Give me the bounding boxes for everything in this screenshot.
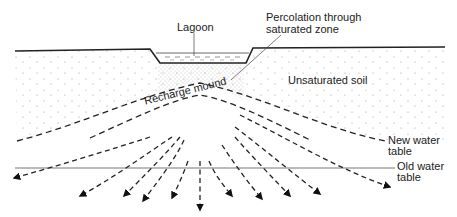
lagoon-water: [156, 53, 249, 60]
flow-arrow-icon: [209, 161, 232, 196]
recharge-mound-diagram: [0, 0, 457, 217]
flow-arrow-icon: [14, 137, 150, 178]
lagoon-label: Lagoon: [177, 22, 214, 33]
new-water-table-label-line2: table: [388, 146, 412, 157]
flow-arrows: [14, 115, 390, 210]
percolation-label-line1: Percolation through: [266, 12, 361, 23]
unsaturated-soil-label: Unsaturated soil: [288, 75, 368, 86]
flow-arrow-icon: [235, 137, 290, 196]
flow-arrow-icon: [124, 137, 180, 196]
old-water-table-label-line2: table: [397, 172, 421, 183]
flow-arrow-icon: [172, 161, 188, 198]
flow-arrow-icon: [80, 137, 172, 196]
percolation-label-line2: saturated zone: [266, 24, 339, 35]
flow-arrow-icon: [235, 127, 320, 194]
